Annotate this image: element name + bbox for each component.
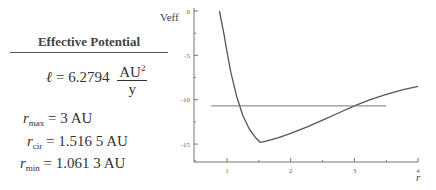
x-axis-label: r: [416, 171, 421, 183]
y-tick-label: -5: [184, 52, 190, 60]
y-tick-label: -10: [181, 96, 191, 104]
veff-plot: 0-5-10-151234 Veff r: [0, 0, 436, 190]
veff-curve: [219, 11, 418, 142]
plot-axes: 0-5-10-151234: [181, 8, 421, 176]
y-axis-label: Veff: [160, 11, 179, 23]
plot-lines: [211, 11, 418, 142]
x-tick-label: 3: [353, 167, 357, 175]
x-tick-label: 2: [289, 167, 293, 175]
x-tick-label: 1: [225, 167, 229, 175]
y-tick-label: -15: [181, 141, 191, 149]
y-tick-label: 0: [187, 8, 191, 16]
